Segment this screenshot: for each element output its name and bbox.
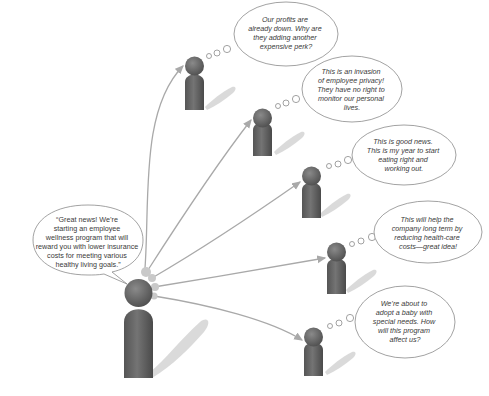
speaker-bubble: “Great news! We’re starting an employee … [33, 205, 143, 284]
receiver-head [327, 243, 346, 262]
thought-line: they adding another [253, 33, 317, 42]
thought-line: already down. Why are [248, 24, 322, 33]
thought-line: company long term by [392, 224, 463, 233]
receiver-shadow [274, 132, 305, 155]
arrow-to-receiver-1 [145, 66, 183, 268]
receiver-body [304, 343, 323, 377]
thought-line: This is my year to start [367, 146, 440, 155]
communication-diagram: “Great news! We’re starting an employee … [0, 0, 489, 396]
thought-dot [346, 314, 353, 321]
speaker-message-line: reward you with lower insurance [36, 242, 139, 251]
receiver-shadow [205, 87, 236, 110]
thought-dot [336, 320, 342, 326]
thought-line: expensive perk? [260, 42, 312, 51]
thought-line: This is an invasion [321, 67, 380, 76]
receivers: Our profits are already down. Why are th… [185, 2, 482, 376]
thought-line: They have no right to [317, 85, 385, 94]
receiver-body [302, 183, 321, 219]
thought-line: adopt a baby with [376, 308, 432, 317]
thought-line: costs—great idea! [399, 242, 457, 251]
receiver-body [253, 123, 272, 157]
receiver-body [327, 259, 346, 295]
receiver-head [185, 57, 204, 76]
receiver-body [185, 75, 204, 111]
thought-line: eating right and [378, 155, 429, 164]
thought-dot [223, 45, 230, 52]
receiver-4: This will help the company long term by … [327, 201, 482, 294]
thought-line: reducing health-care [394, 233, 460, 242]
arrows [145, 66, 325, 340]
speaker-message-line: starting an employee [54, 224, 121, 233]
receiver-shadow [346, 270, 377, 293]
receiver-head [253, 109, 272, 128]
thought-dot [283, 100, 289, 106]
thought-dot [358, 238, 364, 244]
thought-dot [207, 54, 212, 59]
thought-dot [344, 156, 351, 163]
thought-line: lives. [344, 103, 360, 112]
speaker-message-line: wellness program that will [45, 233, 129, 242]
thought-line: This will help the [400, 215, 453, 224]
thought-dot [328, 324, 333, 329]
thought-dot [292, 95, 299, 102]
speaker-shadow [150, 320, 208, 378]
thought-line: affect us? [389, 335, 420, 344]
thought-dot [327, 164, 332, 169]
thought-line: We’re about to [381, 299, 428, 308]
receiver-shadow [325, 352, 356, 375]
receiver-5: We’re about to adopt a baby with special… [304, 286, 455, 376]
thought-line: working out. [385, 164, 424, 173]
thought-line: monitor our personal [318, 94, 384, 103]
thought-line: This is good news. [373, 137, 433, 146]
thought-dot [335, 161, 341, 167]
thought-line: will this program [378, 326, 430, 335]
thought-dot [350, 242, 355, 247]
thought-text: This will help the company long term by … [392, 215, 465, 251]
arrow-to-receiver-2 [148, 120, 251, 270]
thought-dot [214, 50, 220, 56]
arrow-to-receiver-4 [154, 258, 325, 287]
receiver-head [304, 328, 323, 347]
arrow-to-receiver-5 [154, 296, 302, 340]
speaker-figure [124, 279, 208, 378]
thought-line: special needs. How [373, 317, 436, 326]
thought-dot [276, 104, 281, 109]
receiver-head [302, 167, 321, 186]
speaker-head [125, 279, 153, 307]
speaker-message-line: “Great news! We’re [56, 215, 118, 224]
speaker-message-line: healthy living goals.” [55, 260, 121, 269]
speaker-message-line: costs for meeting various [47, 251, 127, 260]
speaker-body [124, 309, 153, 378]
thought-line: of employee privacy! [318, 76, 384, 85]
receiver-shadow [320, 194, 351, 217]
thought-line: Our profits are [262, 15, 308, 24]
